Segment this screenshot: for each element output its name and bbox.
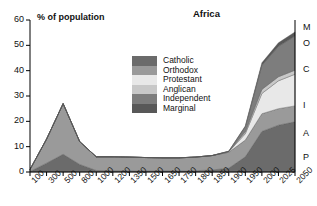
y-tick-label: 0 <box>2 166 24 176</box>
y-tick-label: 60 <box>2 14 24 24</box>
legend-item[interactable]: Marginal <box>132 104 210 114</box>
y-tick-label: 40 <box>2 65 24 75</box>
legend-label: Marginal <box>163 104 196 114</box>
legend-swatch-icon <box>132 66 157 76</box>
right-axis-label-o: O <box>303 38 310 48</box>
right-axis-label-m: M <box>303 22 311 32</box>
chart-container: Africa % of population 0102030405060 100… <box>0 0 317 206</box>
right-axis-label-a: A <box>303 128 309 138</box>
legend-swatch-icon <box>132 104 157 114</box>
legend-swatch-icon <box>132 56 157 66</box>
legend-swatch-icon <box>132 94 157 104</box>
legend-swatch-icon <box>132 85 157 95</box>
right-axis-label-c: C <box>303 64 310 74</box>
y-tick-label: 20 <box>2 115 24 125</box>
y-tick-label: 10 <box>2 141 24 151</box>
right-axis-label-i: I <box>303 100 306 110</box>
right-axis-label-p: P <box>303 152 309 162</box>
y-axis-ticks: 0102030405060 <box>0 0 24 206</box>
chart-legend: CatholicOrthodoxProtestantAnglicanIndepe… <box>132 56 210 113</box>
y-tick-label: 30 <box>2 90 24 100</box>
legend-swatch-icon <box>132 75 157 85</box>
y-tick-label: 50 <box>2 39 24 49</box>
